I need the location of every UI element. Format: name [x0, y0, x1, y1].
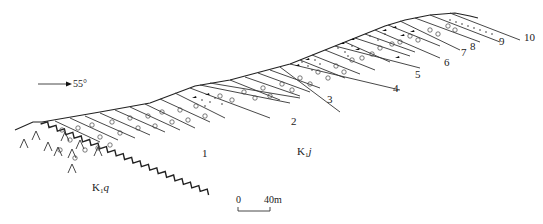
pebble: [436, 32, 440, 36]
flag-mark: [395, 56, 400, 58]
flag-mark: [192, 96, 197, 98]
volcanic-caret: [44, 142, 52, 151]
pebble: [110, 120, 114, 124]
dot: [204, 105, 206, 107]
ground-surface: [15, 13, 478, 130]
volcanic-caret: [68, 164, 76, 173]
dot: [467, 25, 469, 27]
pebble: [253, 96, 257, 100]
pebble: [342, 70, 346, 74]
layer-label-5: 5: [415, 68, 421, 80]
geologic-cross-section: 55° 1 2 3 4 5 6 7 8 9 10 K1j K1q 0 40m: [0, 0, 543, 224]
orientation-label: 55°: [73, 78, 87, 89]
pebble: [408, 34, 412, 38]
pebble: [194, 104, 198, 108]
volcanic-caret: [68, 149, 76, 158]
pebble: [108, 143, 112, 147]
dot: [209, 101, 211, 103]
dot: [319, 63, 321, 65]
bedding-line: [345, 42, 390, 62]
volcanic-caret: [32, 131, 40, 140]
dot: [311, 69, 313, 71]
pebble: [186, 118, 190, 122]
pebble: [76, 126, 80, 130]
flag-marks: [192, 26, 415, 98]
pebble: [416, 38, 420, 42]
dot: [369, 35, 371, 37]
bedding-line: [400, 21, 460, 50]
bedding-line: [175, 93, 225, 118]
pebble: [203, 114, 207, 118]
dot: [347, 55, 349, 57]
bedding-line: [190, 88, 270, 118]
formation-label-lower: K1q: [92, 181, 109, 195]
bedding-lines: [55, 13, 520, 142]
pebble: [98, 135, 102, 139]
dot: [485, 31, 487, 33]
dot: [473, 27, 475, 29]
flag-mark: [340, 42, 345, 44]
dot: [301, 61, 303, 63]
layer-label-6: 6: [444, 56, 450, 68]
layer-label-8: 8: [470, 40, 476, 52]
pebble: [298, 76, 302, 80]
bedding-line: [270, 70, 320, 88]
bedding-line: [300, 60, 345, 78]
dot: [201, 99, 203, 101]
bedding-line: [230, 80, 280, 100]
layer-label-10: 10: [524, 31, 536, 43]
dot: [214, 97, 216, 99]
pebble: [261, 86, 265, 90]
pebble: [90, 123, 94, 127]
dot: [307, 65, 309, 67]
pebble: [218, 94, 222, 98]
bedding-line: [145, 104, 195, 128]
pebble: [170, 120, 174, 124]
pebble: [230, 98, 234, 102]
dot: [449, 19, 451, 21]
dot: [455, 21, 457, 23]
dot: [351, 45, 353, 47]
flag-mark: [355, 48, 360, 50]
scale-end-label: 40m: [264, 194, 282, 205]
dot: [314, 59, 316, 61]
flag-mark: [350, 38, 355, 40]
dot: [337, 47, 339, 49]
dot: [344, 51, 346, 53]
bedding-line: [130, 107, 180, 130]
scale-bar: 0 40m: [236, 194, 282, 211]
orientation-arrow: 55°: [38, 78, 87, 89]
pebble: [428, 28, 432, 32]
dot: [384, 33, 386, 35]
pebble: [280, 82, 284, 86]
flag-mark: [400, 34, 405, 36]
formation-label-upper: K1j: [297, 145, 312, 159]
layer-label-3: 3: [327, 93, 333, 105]
dot: [221, 103, 223, 105]
layer-label-4: 4: [393, 82, 399, 94]
layer-label-1: 1: [202, 147, 208, 159]
dot: [479, 29, 481, 31]
bedding-line: [100, 113, 150, 135]
layer-label-2: 2: [291, 115, 297, 127]
layer-label-9: 9: [499, 35, 505, 47]
dot: [491, 33, 493, 35]
volcanic-caret: [20, 139, 28, 148]
pebble: [453, 28, 457, 32]
flag-mark: [410, 30, 415, 32]
layer-label-7: 7: [461, 46, 467, 58]
pebble: [446, 24, 450, 28]
dot: [377, 39, 379, 41]
pebble: [360, 56, 364, 60]
scale-start-label: 0: [236, 194, 241, 205]
flag-mark: [382, 29, 387, 31]
pebble: [326, 76, 330, 80]
dot: [461, 23, 463, 25]
bedding-line: [160, 99, 210, 122]
pebble: [290, 88, 294, 92]
